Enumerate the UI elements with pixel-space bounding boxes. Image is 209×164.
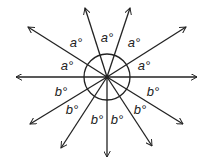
vertex-point [105,75,109,79]
angle-label: b° [66,102,78,117]
angle-label: a° [70,35,82,50]
angle-label: a° [61,58,73,73]
angle-label: b° [91,112,103,127]
angle-label: a° [138,58,150,73]
angle-label: b° [147,84,159,99]
angle-label: a° [128,35,140,50]
angle-diagram: a°a°a°a°a°b°b°b°b°b°b° [0,0,209,164]
angle-label: a° [101,30,113,45]
angle-label: b° [55,84,67,99]
angle-label: b° [111,112,123,127]
angle-label: b° [134,102,146,117]
